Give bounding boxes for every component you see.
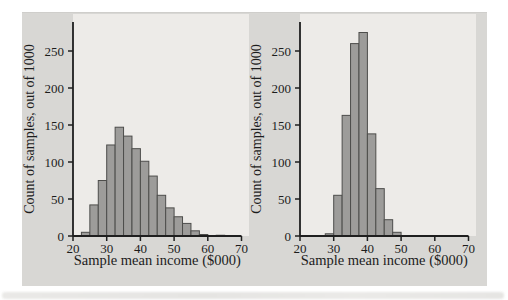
cropped-caption-blur [2, 292, 504, 299]
histogram-left: 203040506070050100150200250Sample mean i… [21, 12, 253, 280]
y-tick-label: 100 [272, 155, 292, 170]
histogram-bar [342, 115, 350, 236]
histogram-bar [98, 181, 106, 237]
histogram-bar [174, 217, 182, 236]
histogram-right: 203040506070050100150200250Sample mean i… [248, 12, 480, 280]
histogram-bar [90, 205, 98, 236]
y-tick-label: 50 [278, 192, 291, 207]
y-tick-label: 0 [285, 229, 292, 244]
histogram-bar [376, 189, 384, 236]
y-tick-label: 200 [45, 81, 65, 96]
histogram-bar [351, 44, 359, 236]
y-tick-label: 150 [272, 118, 292, 133]
y-tick-label: 250 [272, 44, 292, 59]
x-axis-label: Sample mean income ($000) [301, 252, 468, 269]
histogram-bar [132, 149, 140, 236]
histogram-bar [334, 195, 342, 236]
histogram-bar [157, 195, 165, 236]
plot-panel [300, 14, 476, 236]
y-axis-label: Count of samples, out of 1000 [22, 44, 37, 214]
histogram-bar [149, 176, 157, 236]
y-tick-label: 200 [272, 81, 292, 96]
y-tick-label: 0 [58, 229, 65, 244]
histogram-bar [124, 136, 132, 236]
histogram-bar [384, 220, 392, 236]
y-tick-label: 100 [45, 155, 65, 170]
y-axis-label: Count of samples, out of 1000 [249, 44, 264, 214]
histogram-bar [115, 127, 123, 236]
y-tick-label: 150 [45, 118, 65, 133]
histogram-bar [183, 223, 191, 236]
histogram-bar [359, 33, 367, 237]
x-axis-label: Sample mean income ($000) [74, 252, 241, 269]
histogram-bar [367, 134, 375, 236]
y-tick-label: 50 [51, 192, 64, 207]
histogram-bar [107, 145, 115, 236]
y-tick-label: 250 [45, 44, 65, 59]
histogram-bar [166, 208, 174, 236]
histogram-bar [140, 161, 148, 236]
